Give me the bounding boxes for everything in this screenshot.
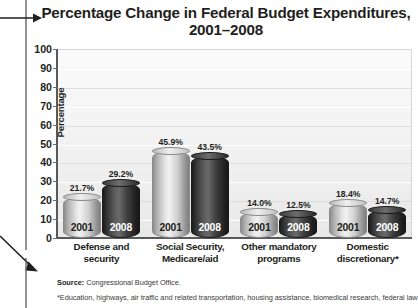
y-axis-tick-label: 90 (22, 63, 52, 74)
y-axis-tick-label: 20 (22, 195, 52, 206)
y-axis-tick-label: 60 (22, 120, 52, 131)
x-axis-category-line: Medicare/aid (146, 253, 235, 265)
y-axis-tick-label: 10 (22, 214, 52, 225)
x-axis-category-label: Other mandatoryprograms (235, 241, 324, 264)
bar-2001-3: 200114.0% (240, 212, 278, 238)
x-axis-category-label: Social Security,Medicare/aid (146, 241, 235, 264)
bar-value-label: 18.4% (323, 189, 373, 199)
y-axis-tick-label: 30 (22, 176, 52, 187)
bar-top-ellipse (102, 179, 140, 187)
bar-top-ellipse (191, 152, 229, 160)
bar-2008-4: 200814.7% (368, 210, 406, 238)
source-label: Source: (57, 278, 84, 287)
y-axis-tick-mark (53, 162, 57, 163)
y-axis-tick-mark (53, 68, 57, 69)
source-note: Source: Congressional Budget Office. (57, 278, 181, 287)
footnote: *Education, highways, air traffic and re… (57, 293, 418, 302)
bar-series-label: 2001 (329, 222, 367, 233)
y-axis-tick-mark (53, 106, 57, 107)
bar-series-label: 2008 (102, 222, 140, 233)
bar-2001-2: 200145.9% (152, 151, 190, 238)
bar-2008-1: 200829.2% (102, 183, 140, 238)
chart-title-line1: Percentage Change in Federal Budget Expe… (41, 4, 410, 21)
x-axis-category-label: Domesticdiscretionary* (323, 241, 412, 264)
bar-series-label: 2001 (240, 222, 278, 233)
bar-top-ellipse (240, 208, 278, 216)
x-axis-category-line: Social Security, (146, 241, 235, 253)
x-axis-category-line: Domestic (323, 241, 412, 253)
bar-series-label: 2008 (191, 222, 229, 233)
source-text: Congressional Budget Office. (84, 278, 181, 287)
bar-value-label: 21.7% (57, 183, 107, 193)
x-axis-category-line: discretionary* (323, 253, 412, 265)
page-title: Percentage Change in Federal Budget Expe… (40, 4, 412, 38)
y-axis-title: Percentage (55, 63, 66, 163)
y-axis-tick-mark (53, 200, 57, 201)
y-axis-tick-mark (53, 144, 57, 145)
y-axis-tick-label: 70 (22, 101, 52, 112)
y-axis-tick-label: 100 (22, 44, 52, 55)
bar-2008-2: 200843.5% (191, 156, 229, 238)
y-axis-tick-label: 80 (22, 82, 52, 93)
x-axis-category-line: security (57, 253, 146, 265)
gridline (58, 126, 411, 127)
bar-top-ellipse (63, 193, 101, 201)
y-axis-tick-mark (53, 219, 57, 220)
y-axis-tick-label: 0 (22, 233, 52, 244)
y-axis-tick-mark (53, 87, 57, 88)
gridline (58, 69, 411, 70)
x-axis-category-line: Other mandatory (235, 241, 324, 253)
bar-series-label: 2008 (279, 222, 317, 233)
gridline (58, 88, 411, 89)
bar-2008-3: 200812.5% (279, 214, 317, 238)
bar-value-label: 45.9% (146, 137, 196, 147)
x-axis-category-label: Defense andsecurity (57, 241, 146, 264)
bar-value-label: 14.0% (234, 198, 284, 208)
bar-2001-1: 200121.7% (63, 197, 101, 238)
plot-wrap: Percentage 1009080706050403020100200121.… (57, 49, 412, 238)
x-axis-category-line: programs (235, 253, 324, 265)
bar-2001-4: 200118.4% (329, 203, 367, 238)
y-axis-tick-mark (53, 49, 57, 50)
y-axis-tick-mark (53, 125, 57, 126)
y-axis-tick-label: 50 (22, 139, 52, 150)
x-axis-category-line: Defense and (57, 241, 146, 253)
gridline (58, 107, 411, 108)
y-axis-tick-mark (53, 238, 57, 239)
bar-series-label: 2001 (152, 222, 190, 233)
bar-value-label: 29.2% (96, 169, 146, 179)
gridline (58, 163, 411, 164)
bar-series-label: 2001 (63, 222, 101, 233)
y-axis-tick-label: 40 (22, 157, 52, 168)
bar-series-label: 2008 (368, 222, 406, 233)
chart-title-line2: 2001–2008 (40, 21, 412, 38)
